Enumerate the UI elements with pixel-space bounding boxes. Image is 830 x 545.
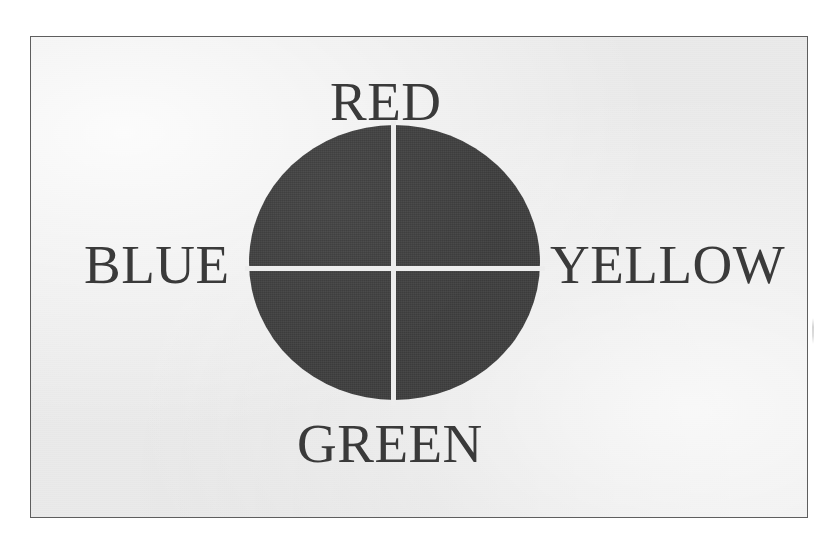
quadrant-label-red: RED <box>330 74 442 129</box>
vertical-divider-line <box>391 121 396 406</box>
quadrant-label-blue: BLUE <box>84 237 230 292</box>
scanned-figure-page: RED BLUE YELLOW GREEN <box>0 0 830 545</box>
horizontal-divider-line <box>245 266 545 271</box>
quadrant-label-yellow: YELLOW <box>550 237 785 292</box>
scan-artifact-mark <box>812 318 814 344</box>
figure-plate: RED BLUE YELLOW GREEN <box>30 36 808 518</box>
quadrant-label-green: GREEN <box>297 416 483 471</box>
